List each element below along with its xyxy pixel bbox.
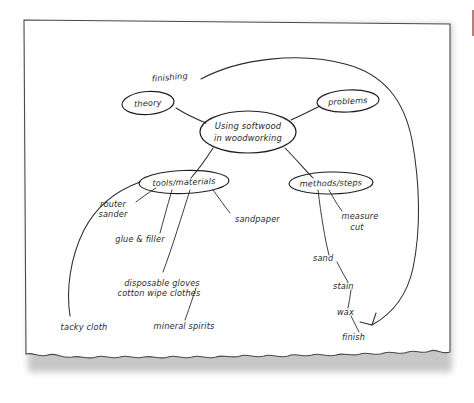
- label-measure: measure: [342, 211, 379, 221]
- label-wax: wax: [337, 307, 354, 317]
- paper-sheet: [24, 20, 450, 358]
- label-cut: cut: [350, 222, 364, 232]
- label-finish: finish: [342, 332, 365, 342]
- label-glue-filler: glue & filler: [115, 234, 165, 244]
- label-sand: sand: [313, 253, 334, 263]
- label-mineral-spirits: mineral spirits: [154, 321, 215, 331]
- node-center-label-line2: in woodworking: [214, 133, 282, 143]
- label-sander: sander: [99, 209, 128, 219]
- label-cotton-wipe-clothes: cotton wipe clothes: [118, 288, 201, 298]
- label-tacky-cloth: tacky cloth: [61, 322, 108, 332]
- label-stain: stain: [333, 281, 354, 291]
- label-router: router: [100, 199, 127, 209]
- node-methods-label: methods/steps: [300, 177, 363, 188]
- mindmap-canvas: theory problems Using softwood in woodwo…: [0, 0, 474, 403]
- mindmap-page: theory problems Using softwood in woodwo…: [0, 0, 474, 403]
- node-center-label-line1: Using softwood: [215, 121, 282, 131]
- label-disposable-gloves: disposable gloves: [124, 278, 200, 288]
- node-theory-label: theory: [134, 97, 162, 109]
- label-sandpaper: sandpaper: [235, 214, 280, 224]
